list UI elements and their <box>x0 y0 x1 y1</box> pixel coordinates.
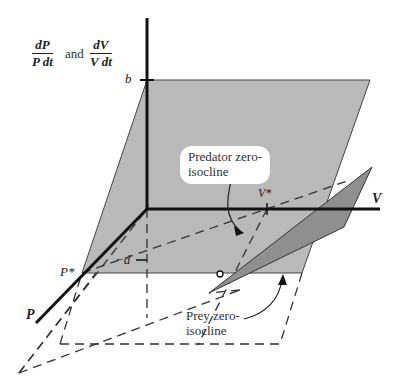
predator-callout-line1: Predator zero- <box>188 150 262 165</box>
prey-callout-line1: Prey zero- <box>186 309 240 324</box>
dp-numerator: dP <box>35 38 49 52</box>
pdt-denominator: P dt <box>32 55 53 69</box>
equilibrium-point <box>217 271 223 277</box>
p-star-label: P* <box>60 265 74 278</box>
prey-callout-line2: isocline <box>186 324 240 339</box>
p-axis-label: P <box>26 308 35 322</box>
b-label: b <box>125 72 132 85</box>
prey-arrowhead <box>278 274 287 285</box>
predator-callout-line2: isocline <box>188 165 262 180</box>
v-axis-label: V <box>372 192 381 206</box>
predator-isocline-callout: Predator zero- isocline <box>180 146 270 184</box>
v-star-label: V* <box>258 187 271 199</box>
dv-over-vdt-label: dV V dt <box>90 38 112 68</box>
and-connector: and <box>65 46 84 62</box>
dp-over-pdt-label: dP P dt <box>32 38 53 68</box>
neg-d-label: −d <box>115 253 130 266</box>
prey-isocline-callout: Prey zero- isocline <box>186 309 240 339</box>
vdt-denominator: V dt <box>90 55 112 69</box>
dv-numerator: dV <box>93 38 108 52</box>
